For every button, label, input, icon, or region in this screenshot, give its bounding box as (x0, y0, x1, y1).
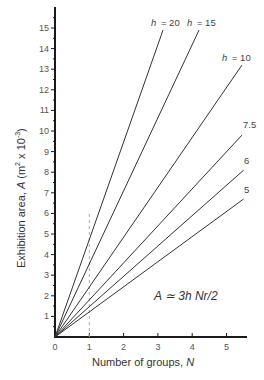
x-tick-label: 0 (52, 342, 57, 352)
x-tick-label: 3 (155, 342, 160, 352)
axes (54, 7, 247, 337)
formula-annotation: A ≃ 3h Nr/2 (153, 289, 218, 303)
y-tick-label: 1 (44, 311, 49, 321)
y-tick-label: 6 (44, 208, 49, 218)
x-tick-label: 1 (87, 342, 92, 352)
y-tick-label: 9 (44, 147, 49, 157)
y-tick-label: 14 (39, 44, 49, 54)
y-tick-label: 8 (44, 167, 49, 177)
y-tick-label: 7 (44, 188, 49, 198)
y-tick-label: 11 (40, 105, 49, 115)
y-tick-label: 2 (44, 291, 49, 301)
x-axis-title: Number of groups, N (92, 356, 194, 368)
series-labels: h = 20 h = 15 h = 10 7.5 6 5 (151, 17, 256, 195)
y-tick-label: 4 (44, 250, 49, 260)
x-tick-label: 4 (190, 342, 195, 352)
y-tick-label: 10 (39, 126, 49, 136)
series-line (55, 170, 244, 337)
y-tick-label: 15 (39, 23, 49, 33)
y-tick-label: 3 (44, 270, 49, 280)
y-ticks: 123456789101112131415 (39, 18, 55, 327)
y-axis-title: Exhibition area, A (m2 x 10-3) (14, 128, 27, 268)
y-tick-label: 5 (44, 229, 49, 239)
exhibition-area-chart: 123456789101112131415 012345 h = 20 h = … (0, 0, 264, 380)
series-line (55, 30, 163, 337)
y-tick-label: 12 (39, 85, 49, 95)
label-h5: 5 (244, 184, 249, 195)
label-h6: 6 (244, 155, 249, 166)
label-h7-5: 7.5 (243, 119, 256, 130)
x-tick-label: 2 (121, 342, 126, 352)
series-line (55, 135, 242, 337)
x-ticks: 012345 (52, 333, 229, 352)
y-tick-label: 13 (39, 64, 49, 74)
label-h20: h = 20 (151, 17, 180, 28)
label-h10: h = 10 (222, 52, 251, 63)
label-h15: h = 15 (187, 17, 216, 28)
series-line (55, 199, 244, 337)
x-tick-label: 5 (224, 342, 229, 352)
